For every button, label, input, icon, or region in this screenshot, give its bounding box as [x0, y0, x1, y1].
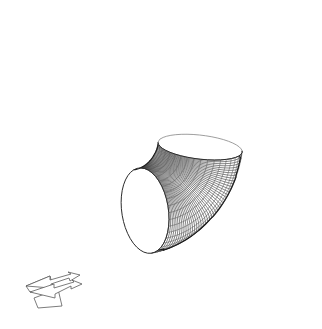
figure-root: 3D wireframe mesh of a 90 degree pipe el… [0, 0, 322, 329]
elbow-wireframe-figure [0, 0, 322, 329]
